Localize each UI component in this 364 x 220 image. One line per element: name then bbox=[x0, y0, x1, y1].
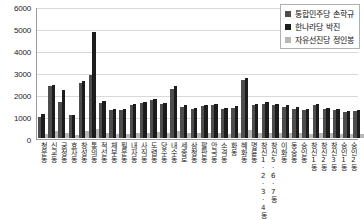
bar bbox=[62, 90, 65, 138]
x-axis-label-cell: 삼청동 bbox=[187, 142, 197, 218]
bar-group bbox=[262, 8, 272, 138]
legend-swatch bbox=[285, 37, 291, 43]
x-axis-tick-label: 효자동 bbox=[69, 142, 76, 163]
bar-group bbox=[201, 8, 211, 138]
legend-item: 자유선진당 정인봉 bbox=[285, 34, 354, 45]
bar-group bbox=[69, 8, 79, 138]
bar-group bbox=[191, 8, 201, 138]
bar-group bbox=[160, 8, 170, 138]
x-axis-tick-label: 신교동 bbox=[49, 142, 56, 163]
x-axis-tick-label: 이화동 bbox=[279, 142, 286, 163]
x-axis-label-cell: 필운동 bbox=[117, 142, 127, 218]
chart-legend: 통합민주당 손학규한나라당 박진자유선진당 정인봉 bbox=[280, 4, 360, 49]
x-axis-label-cell: 내자동 bbox=[127, 142, 137, 218]
x-axis-tick-label: 세종로 bbox=[179, 142, 186, 163]
y-axis-tick-label: 4000 bbox=[14, 48, 31, 57]
x-axis-label-cell: 소격동 bbox=[218, 142, 228, 218]
x-axis-tick-label: 숭인2동 bbox=[349, 142, 356, 171]
x-axis-label-cell: 창신1동 bbox=[308, 142, 318, 218]
x-axis-label-cell: 도렴동 bbox=[147, 142, 157, 218]
legend-item: 통합민주당 손학규 bbox=[285, 8, 354, 19]
x-axis-tick-label: 창신2동 bbox=[319, 142, 326, 171]
legend-label: 자유선진당 정인봉 bbox=[295, 34, 354, 45]
legend-label: 한나라당 박진 bbox=[295, 21, 340, 32]
x-axis-tick-label: 명륜동 bbox=[249, 142, 256, 163]
x-axis-tick-label: 숭인동 bbox=[299, 142, 306, 163]
y-axis-tick-label: 1000 bbox=[14, 114, 31, 123]
bar-group bbox=[231, 8, 241, 138]
legend-swatch bbox=[285, 24, 291, 30]
x-axis-labels: 청운동신교동궁정동효자동창성동통의동적선동체부동필운동내자동사직동도렴동당주동내… bbox=[37, 142, 358, 218]
x-axis-tick-label: 체부동 bbox=[109, 142, 116, 163]
legend-item: 한나라당 박진 bbox=[285, 21, 354, 32]
x-axis-tick-label: 궁정동 bbox=[59, 142, 66, 163]
x-axis-tick-label: 창신5·6·7동 bbox=[269, 142, 276, 203]
x-axis-tick-label: 당주동 bbox=[159, 142, 166, 163]
x-axis-label-cell: 이화동 bbox=[278, 142, 288, 218]
x-axis-label-cell: 창신3동 bbox=[328, 142, 338, 218]
x-axis-tick-label: 창성동 bbox=[79, 142, 86, 163]
y-axis-tick-label: 3000 bbox=[14, 70, 31, 79]
x-axis-label-cell: 창신5·6·7동 bbox=[268, 142, 278, 218]
legend-label: 통합민주당 손학규 bbox=[295, 8, 354, 19]
x-axis-tick-label: 사직동 bbox=[139, 142, 146, 163]
y-axis-tick-label: 6000 bbox=[14, 4, 31, 13]
bar-group bbox=[130, 8, 140, 138]
x-axis-tick-label: 필운동 bbox=[119, 142, 126, 163]
x-axis-tick-label: 동숭동 bbox=[289, 142, 296, 163]
x-axis-label-cell: 궁정동 bbox=[57, 142, 67, 218]
x-axis-label-cell: 숭인1동 bbox=[338, 142, 348, 218]
bar-group bbox=[221, 8, 231, 138]
bar bbox=[92, 32, 95, 138]
bar-group bbox=[109, 8, 119, 138]
x-axis-label-cell: 체부동 bbox=[107, 142, 117, 218]
x-axis-label-cell: 청운동 bbox=[37, 142, 47, 218]
x-axis-tick-label: 창신1동 bbox=[309, 142, 316, 171]
x-axis-tick-label: 내수동 bbox=[169, 142, 176, 163]
x-axis-label-cell: 사직동 bbox=[137, 142, 147, 218]
x-axis-tick-label: 안국동 bbox=[209, 142, 216, 163]
x-axis-label-cell: 창신2동 bbox=[318, 142, 328, 218]
bar bbox=[52, 85, 55, 138]
y-axis-tick-label: 0 bbox=[27, 136, 31, 145]
x-axis-tick-label: 삼청동 bbox=[189, 142, 196, 163]
bar-group bbox=[119, 8, 129, 138]
bar bbox=[82, 81, 85, 138]
bar bbox=[360, 134, 363, 138]
bar-group bbox=[38, 8, 48, 138]
x-axis-tick-label: 숭인1동 bbox=[339, 142, 346, 171]
bar-group bbox=[252, 8, 262, 138]
x-axis-tick-label: 화동 bbox=[229, 142, 236, 156]
y-axis: 6000500040003000200010000 bbox=[0, 0, 34, 140]
bar-group bbox=[140, 8, 150, 138]
y-axis-tick-label: 2000 bbox=[14, 92, 31, 101]
bar-group bbox=[48, 8, 58, 138]
x-axis-label-cell: 통의동 bbox=[87, 142, 97, 218]
legend-swatch bbox=[285, 11, 291, 17]
y-axis-tick-label: 5000 bbox=[14, 26, 31, 35]
x-axis-tick-label: 팔판동 bbox=[199, 142, 206, 163]
bar-group bbox=[241, 8, 251, 138]
bar-group bbox=[89, 8, 99, 138]
x-axis-tick-label: 내자동 bbox=[129, 142, 136, 163]
x-axis-label-cell: 동숭동 bbox=[288, 142, 298, 218]
x-axis-label-cell: 혜화동 bbox=[238, 142, 248, 218]
x-axis-tick-label: 청운동 bbox=[39, 142, 46, 163]
x-axis-label-cell: 세종로 bbox=[177, 142, 187, 218]
x-axis-tick-label: 적선동 bbox=[99, 142, 106, 163]
bar-group bbox=[150, 8, 160, 138]
bar-group bbox=[170, 8, 180, 138]
x-axis-label-cell: 숭인2동 bbox=[348, 142, 358, 218]
bar-group bbox=[180, 8, 190, 138]
x-axis-tick-label: 도렴동 bbox=[149, 142, 156, 163]
x-axis-label-cell: 안국동 bbox=[208, 142, 218, 218]
x-axis-tick-label: 통의동 bbox=[89, 142, 96, 163]
x-axis-label-cell: 숭인동 bbox=[298, 142, 308, 218]
bar-chart: 6000500040003000200010000 청운동신교동궁정동효자동창성… bbox=[0, 0, 364, 220]
x-axis-tick-label: 창신1·2·3·4동 bbox=[259, 142, 266, 219]
x-axis-tick-label: 소격동 bbox=[219, 142, 226, 163]
x-axis-label-cell: 팔판동 bbox=[198, 142, 208, 218]
x-axis-label-cell: 신교동 bbox=[47, 142, 57, 218]
x-axis-label-cell: 당주동 bbox=[157, 142, 167, 218]
x-axis-tick-label: 혜화동 bbox=[239, 142, 246, 163]
